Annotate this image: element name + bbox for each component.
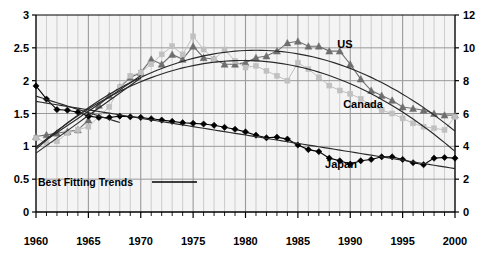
chart-container: 00.511.522.53 024681012 1960196519701975…: [0, 0, 485, 263]
data-point-canada: [201, 47, 206, 52]
x-axis-tick-labels: 196019651970197519801985199019952000: [24, 235, 467, 247]
data-point-canada: [316, 75, 321, 80]
data-point-canada: [138, 70, 143, 75]
data-point-canada: [348, 91, 353, 96]
data-point-canada: [222, 47, 227, 52]
series-label-us: US: [337, 38, 352, 50]
y-tick-label-right: 12: [463, 9, 475, 21]
x-tick-label: 1965: [76, 235, 100, 247]
data-point-canada: [180, 52, 185, 57]
x-tick-label: 1970: [129, 235, 153, 247]
x-tick-label: 1960: [24, 235, 48, 247]
data-point-canada: [128, 73, 133, 78]
y-tick-label-right: 0: [463, 206, 469, 218]
data-point-canada: [337, 88, 342, 93]
data-point-canada: [253, 63, 258, 68]
y-tick-label-right: 8: [463, 75, 469, 87]
data-point-canada: [327, 83, 332, 88]
y-tick-label-right: 10: [463, 42, 475, 54]
data-point-canada: [274, 73, 279, 78]
data-point-canada: [149, 62, 154, 67]
data-point-canada: [159, 52, 164, 57]
series-label-japan: Japan: [325, 158, 357, 170]
x-tick-label: 1995: [390, 235, 414, 247]
data-point-canada: [390, 111, 395, 116]
x-tick-label: 1975: [181, 235, 205, 247]
x-tick-label: 1990: [338, 235, 362, 247]
series-label-canada: Canada: [343, 98, 384, 110]
data-point-canada: [432, 126, 437, 131]
data-point-canada: [285, 78, 290, 83]
y-tick-label-right: 6: [463, 108, 469, 120]
data-point-canada: [75, 127, 80, 132]
data-point-canada: [191, 34, 196, 39]
y-tick-label-left: 0: [23, 206, 29, 218]
data-point-canada: [170, 44, 175, 49]
data-point-canada: [107, 104, 112, 109]
y-tick-label-right: 2: [463, 173, 469, 185]
y-tick-label-left: 0.5: [14, 173, 29, 185]
data-point-canada: [243, 65, 248, 70]
y-tick-label-left: 1: [23, 140, 29, 152]
y-tick-label-left: 2: [23, 75, 29, 87]
y-tick-label-right: 4: [463, 140, 470, 152]
data-point-canada: [453, 114, 458, 119]
data-point-canada: [264, 68, 269, 73]
y-tick-label-left: 3: [23, 9, 29, 21]
y-tick-label-left: 2.5: [14, 42, 29, 54]
x-tick-label: 1985: [286, 235, 310, 247]
x-tick-label: 1980: [233, 235, 257, 247]
data-point-canada: [212, 57, 217, 62]
data-point-canada: [411, 121, 416, 126]
data-point-canada: [400, 116, 405, 121]
data-point-canada: [86, 124, 91, 129]
data-point-canada: [34, 136, 39, 141]
x-tick-label: 2000: [443, 235, 467, 247]
economic-trends-line-chart: 00.511.522.53 024681012 1960196519701975…: [0, 0, 485, 263]
data-point-canada: [442, 127, 447, 132]
legend-best-fitting-trends-label: Best Fitting Trends: [38, 176, 133, 188]
data-point-canada: [295, 60, 300, 65]
y-tick-label-left: 1.5: [14, 108, 29, 120]
